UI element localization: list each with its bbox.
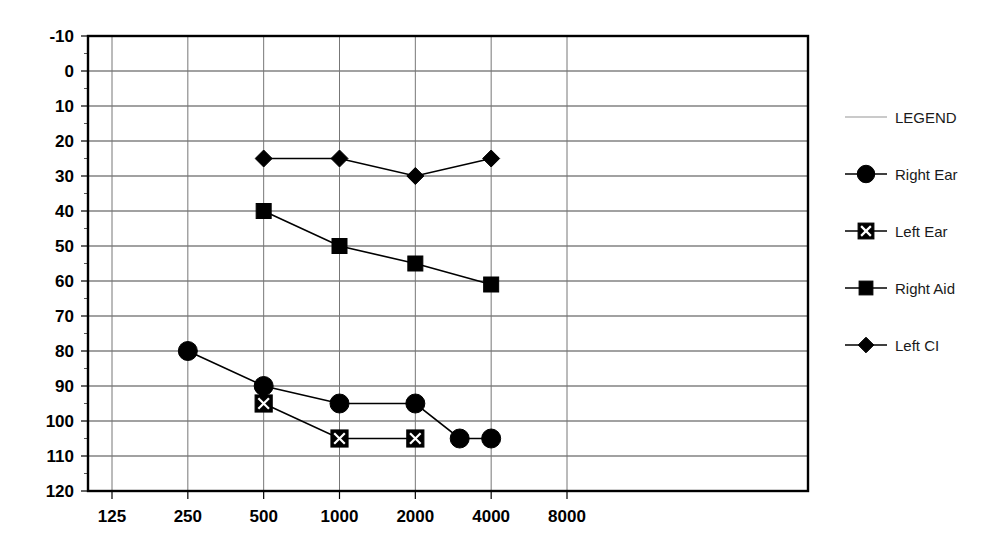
y-axis-label: 50 bbox=[55, 237, 74, 256]
y-axis-label: 90 bbox=[55, 377, 74, 396]
legend-item-right-ear[interactable]: Right Ear bbox=[845, 165, 958, 183]
data-point-filled-circle bbox=[450, 429, 469, 448]
data-point-square-with-x bbox=[858, 223, 874, 239]
y-axis-label: 60 bbox=[55, 272, 74, 291]
data-point-square-with-x bbox=[255, 395, 272, 412]
y-axis-label: 40 bbox=[55, 202, 74, 221]
data-point-filled-square bbox=[332, 239, 347, 254]
audiogram-svg: -100102030405060708090100110120 12525050… bbox=[0, 0, 999, 553]
legend-item-label: Left CI bbox=[895, 337, 939, 354]
x-axis-label: 2000 bbox=[396, 507, 434, 526]
data-point-filled-square bbox=[408, 256, 423, 271]
data-point-filled-square bbox=[256, 204, 271, 219]
data-point-filled-circle bbox=[178, 342, 197, 361]
y-axis-label: -10 bbox=[49, 27, 74, 46]
legend-item-left-ear[interactable]: Left Ear bbox=[845, 223, 948, 240]
data-point-filled-circle bbox=[406, 394, 425, 413]
data-point-square-with-x bbox=[331, 430, 348, 447]
legend-item-label: Right Ear bbox=[895, 166, 958, 183]
y-axis-label: 110 bbox=[47, 447, 74, 466]
data-point-square-with-x bbox=[407, 430, 424, 447]
legend-item-label: Right Aid bbox=[895, 280, 955, 297]
data-point-filled-circle bbox=[330, 394, 349, 413]
y-axis-label: 30 bbox=[55, 167, 74, 186]
x-axis-label: 8000 bbox=[548, 507, 586, 526]
audiogram-chart: -100102030405060708090100110120 12525050… bbox=[0, 0, 999, 553]
y-axis-label: 100 bbox=[46, 412, 74, 431]
legend-item-right-aid[interactable]: Right Aid bbox=[845, 280, 955, 297]
x-axis-label: 250 bbox=[174, 507, 202, 526]
data-point-filled-circle bbox=[857, 165, 874, 182]
x-axis-label: 125 bbox=[98, 507, 126, 526]
y-axis-label: 80 bbox=[55, 342, 74, 361]
y-axis-label: 120 bbox=[46, 482, 74, 501]
data-point-filled-square bbox=[484, 277, 499, 292]
x-axis-label: 1000 bbox=[321, 507, 359, 526]
data-point-filled-square bbox=[859, 281, 873, 295]
y-axis-label: 0 bbox=[65, 62, 74, 81]
legend-title: LEGEND bbox=[895, 109, 957, 126]
x-axis-label: 500 bbox=[249, 507, 277, 526]
x-axis-label: 4000 bbox=[472, 507, 510, 526]
y-axis-label: 20 bbox=[55, 132, 74, 151]
data-point-filled-circle bbox=[254, 377, 273, 396]
chart-background bbox=[0, 0, 999, 553]
y-axis-label: 70 bbox=[55, 307, 74, 326]
data-point-filled-circle bbox=[482, 429, 501, 448]
y-axis-label: 10 bbox=[55, 97, 74, 116]
legend-item-label: Left Ear bbox=[895, 223, 948, 240]
